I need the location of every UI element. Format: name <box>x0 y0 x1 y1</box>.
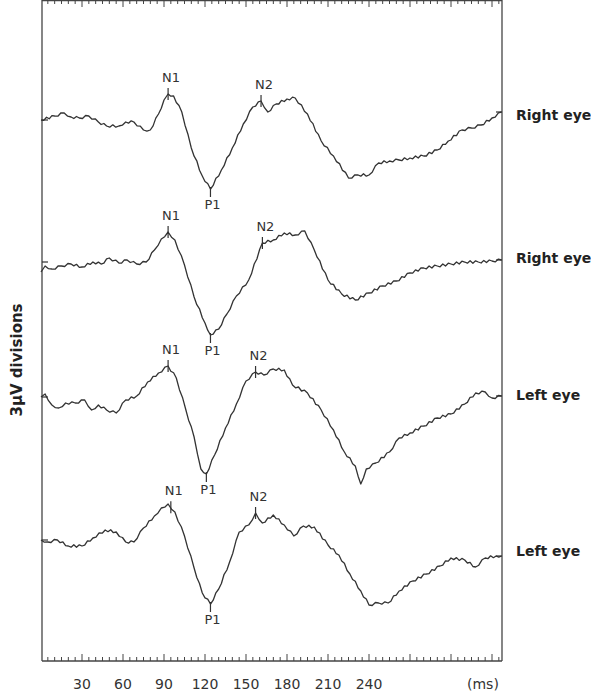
peak-label-p1: P1 <box>200 482 216 497</box>
x-tick-label: 60 <box>114 676 132 692</box>
peak-label-n2: N2 <box>255 77 273 92</box>
peak-label-p1: P1 <box>204 612 220 627</box>
trace-label-4: Left eye <box>516 543 580 559</box>
vep-chart <box>0 0 591 696</box>
trace-label-2: Right eye <box>516 250 591 266</box>
peak-label-n2: N2 <box>250 348 268 363</box>
vep-trace-3 <box>41 366 502 484</box>
y-axis-title-text: 3µV divisions <box>8 303 26 416</box>
vep-traces <box>41 94 502 606</box>
x-tick-label: 150 <box>233 676 260 692</box>
peak-label-n1: N1 <box>162 342 180 357</box>
peak-label-p1: P1 <box>204 343 220 358</box>
vep-trace-1 <box>41 94 502 189</box>
chart-frame <box>42 0 502 661</box>
y-axis-title: 3µV divisions <box>2 300 32 420</box>
trace-label-3: Left eye <box>516 387 580 403</box>
peak-label-n2: N2 <box>256 219 274 234</box>
peak-label-n2: N2 <box>250 489 268 504</box>
trace-label-1: Right eye <box>516 107 591 123</box>
x-axis-unit: (ms) <box>467 676 499 692</box>
vep-trace-4 <box>41 504 502 606</box>
peak-label-n1: N1 <box>162 208 180 223</box>
peak-label-p1: P1 <box>204 197 220 212</box>
x-tick-label: 180 <box>274 676 301 692</box>
vep-trace-2 <box>41 231 502 335</box>
x-tick-label: 240 <box>356 676 383 692</box>
x-tick-label: 90 <box>155 676 173 692</box>
x-tick-label: 120 <box>192 676 219 692</box>
x-tick-label: 30 <box>73 676 91 692</box>
peak-label-n1: N1 <box>162 70 180 85</box>
bottom-axis-ticks <box>48 654 499 661</box>
peak-markers <box>42 88 502 612</box>
peak-label-n1: N1 <box>165 483 183 498</box>
x-tick-label: 210 <box>315 676 342 692</box>
